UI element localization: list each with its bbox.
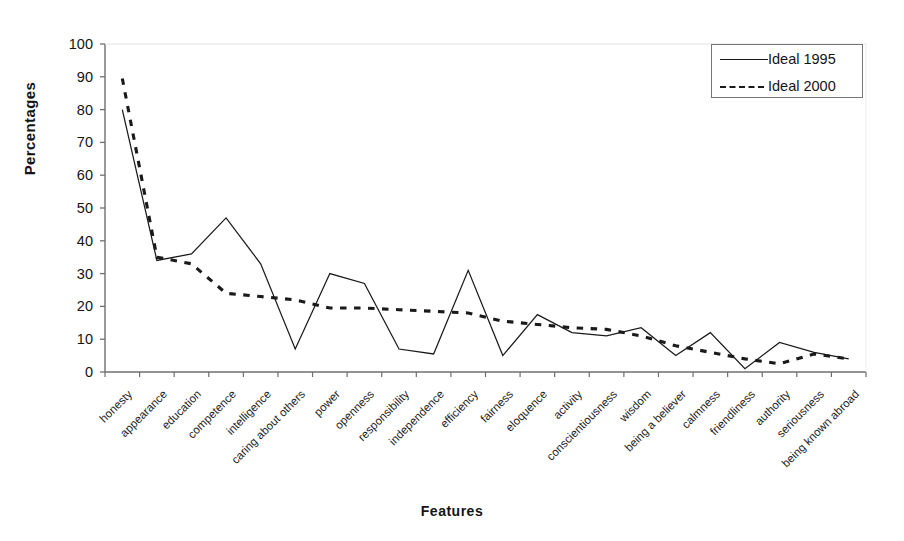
y-tick-label: 90 — [59, 69, 93, 85]
legend-key-dashed-line — [720, 80, 768, 92]
legend-label-ideal-1995: Ideal 1995 — [768, 51, 836, 67]
legend-label-ideal-2000: Ideal 2000 — [768, 78, 836, 94]
y-tick-label: 20 — [59, 298, 93, 314]
y-axis-title: Percentages — [21, 44, 38, 214]
y-tick-label: 40 — [59, 233, 93, 249]
y-tick-label: 30 — [59, 266, 93, 282]
y-tick-label: 80 — [59, 102, 93, 118]
y-tick-label: 60 — [59, 167, 93, 183]
y-tick-label: 0 — [59, 364, 93, 380]
chart-figure: Percentages Features 0102030405060708090… — [0, 0, 904, 541]
legend-item-ideal-2000: Ideal 2000 — [712, 72, 862, 99]
y-tick-label: 50 — [59, 200, 93, 216]
series-line-2 — [122, 78, 848, 363]
y-tick-label: 70 — [59, 134, 93, 150]
legend-key-solid-line — [720, 53, 768, 65]
series-line-1 — [122, 110, 848, 369]
y-tick-label: 10 — [59, 331, 93, 347]
chart-legend: Ideal 1995 Ideal 2000 — [711, 44, 863, 98]
legend-item-ideal-1995: Ideal 1995 — [712, 45, 862, 72]
y-tick-label: 100 — [59, 36, 93, 52]
